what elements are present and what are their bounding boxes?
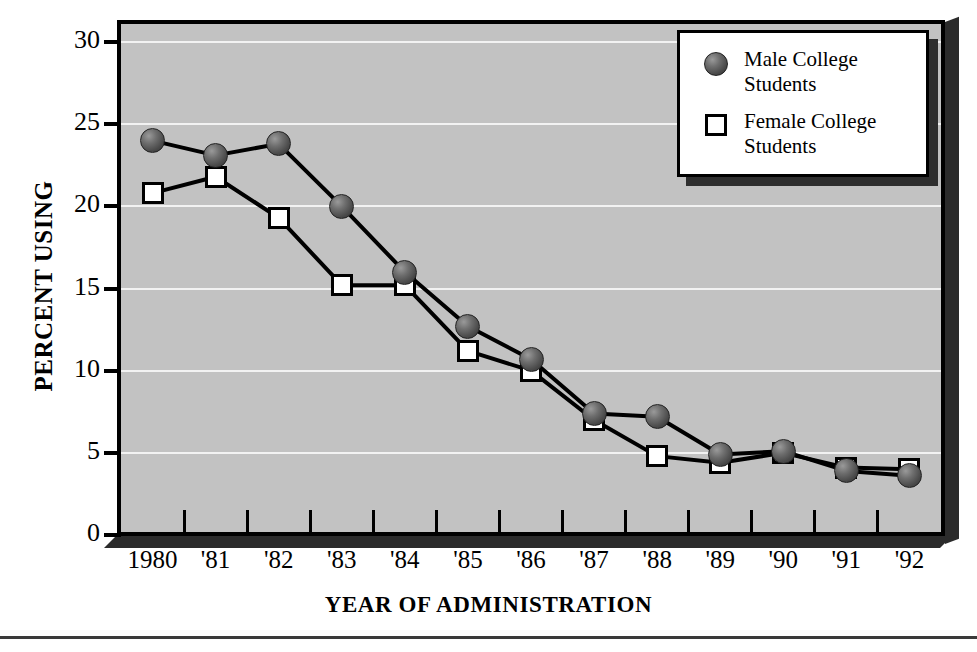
- y-tick-10: [104, 369, 121, 373]
- x-tick-5: [435, 510, 438, 536]
- y-tick-0: [104, 533, 121, 537]
- x-tick-11: [813, 510, 816, 536]
- data-point-female-83: [331, 274, 353, 296]
- chart-legend: Male College Students Female College Stu…: [677, 30, 929, 177]
- data-point-male-89: [708, 442, 733, 467]
- x-axis-title: YEAR OF ADMINISTRATION: [0, 592, 977, 618]
- chart-figure: PERCENT USING 051015202530 1980'81'82'83…: [0, 0, 977, 652]
- y-tick-label-15: 15: [42, 272, 100, 302]
- data-point-female-1980: [142, 182, 164, 204]
- data-point-male-88: [645, 404, 670, 429]
- data-point-female-82: [268, 207, 290, 229]
- series-line-male: [153, 141, 910, 476]
- legend-label-female: Female College Students: [738, 109, 876, 159]
- x-tick-4: [372, 510, 375, 536]
- x-tick-9: [687, 510, 690, 536]
- data-point-male-86: [519, 347, 544, 372]
- data-point-female-81: [205, 166, 227, 188]
- y-axis-tick-labels: 051015202530: [30, 0, 100, 652]
- x-tick-10: [750, 510, 753, 536]
- y-tick-label-0: 0: [42, 518, 100, 548]
- x-tick-8: [624, 510, 627, 536]
- y-tick-label-5: 5: [42, 436, 100, 466]
- series-line-female: [153, 177, 910, 470]
- legend-marker-square-icon: [694, 109, 738, 136]
- data-point-female-88: [646, 445, 668, 467]
- plot-right-shadow-slab: [945, 17, 959, 544]
- data-point-male-90: [771, 439, 796, 464]
- data-point-male-87: [582, 401, 607, 426]
- data-point-female-85: [457, 340, 479, 362]
- data-point-male-84: [392, 260, 417, 285]
- x-tick-2: [246, 510, 249, 536]
- legend-marker-circle-icon: [694, 47, 738, 76]
- legend-label-male: Male College Students: [738, 47, 858, 97]
- legend-item-female: Female College Students: [694, 109, 876, 159]
- y-tick-15: [104, 287, 121, 291]
- data-point-male-83: [329, 194, 354, 219]
- y-tick-label-20: 20: [42, 189, 100, 219]
- x-tick-label-92: '92: [869, 546, 949, 574]
- x-tick-7: [561, 510, 564, 536]
- legend-item-male: Male College Students: [694, 47, 858, 97]
- x-tick-3: [309, 510, 312, 536]
- y-tick-5: [104, 451, 121, 455]
- data-point-male-81: [203, 143, 228, 168]
- y-tick-30: [104, 40, 121, 44]
- data-point-male-1980: [140, 128, 165, 153]
- x-tick-12: [876, 510, 879, 536]
- y-tick-25: [104, 122, 121, 126]
- y-tick-label-30: 30: [42, 25, 100, 55]
- y-tick-label-25: 25: [42, 107, 100, 137]
- x-tick-1: [183, 510, 186, 536]
- y-tick-20: [104, 204, 121, 208]
- y-tick-label-10: 10: [42, 354, 100, 384]
- bottom-divider: [0, 636, 977, 639]
- x-tick-6: [498, 510, 501, 536]
